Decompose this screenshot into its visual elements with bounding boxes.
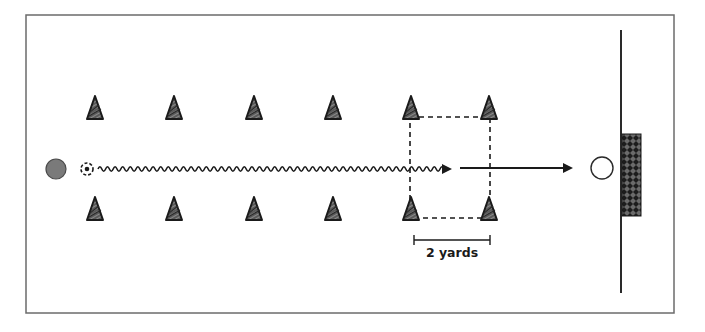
ball-icon — [81, 163, 93, 175]
target-circle-icon — [591, 157, 613, 179]
field-frame — [26, 15, 674, 313]
goal-icon — [622, 134, 641, 216]
player-icon — [46, 159, 66, 179]
drill-diagram: 2 yards — [0, 0, 705, 332]
measure-label: 2 yards — [426, 245, 478, 260]
